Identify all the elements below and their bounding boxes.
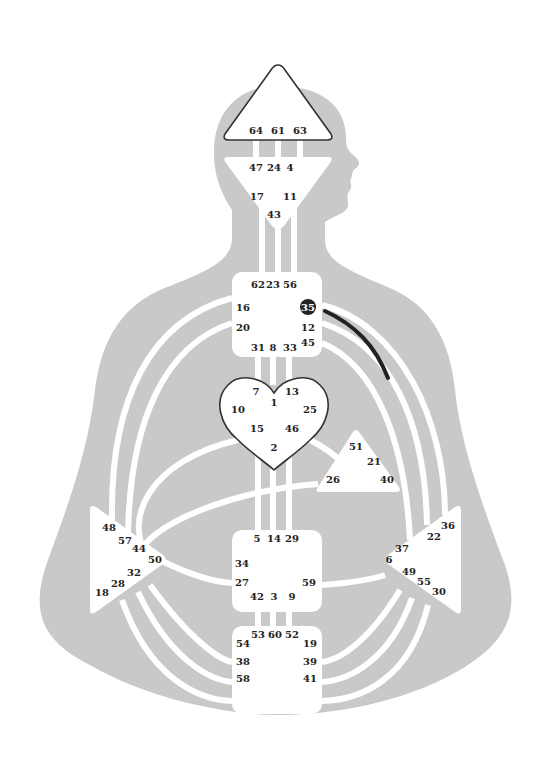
gate-1[interactable]: 1 [271, 397, 278, 408]
gate-5[interactable]: 5 [254, 533, 261, 544]
gate-57[interactable]: 57 [118, 535, 132, 546]
gate-20[interactable]: 20 [236, 322, 250, 333]
gate-42[interactable]: 42 [250, 591, 264, 602]
gate-29[interactable]: 29 [285, 533, 299, 544]
gate-10[interactable]: 10 [231, 404, 245, 415]
gate-43[interactable]: 43 [267, 209, 281, 220]
gate-45[interactable]: 45 [301, 337, 315, 348]
gate-7[interactable]: 7 [253, 386, 260, 397]
gate-9[interactable]: 9 [289, 591, 296, 602]
gate-24[interactable]: 24 [267, 162, 281, 173]
gate-53[interactable]: 53 [251, 629, 265, 640]
gate-44[interactable]: 44 [132, 543, 146, 554]
gate-61[interactable]: 61 [271, 125, 285, 136]
gate-21[interactable]: 21 [367, 456, 381, 467]
gate-15[interactable]: 15 [250, 423, 264, 434]
gate-33[interactable]: 33 [283, 342, 297, 353]
gate-54[interactable]: 54 [236, 638, 250, 649]
gate-6[interactable]: 6 [386, 554, 393, 565]
gate-58[interactable]: 58 [236, 673, 250, 684]
gate-25[interactable]: 25 [303, 404, 317, 415]
gate-60[interactable]: 60 [268, 629, 282, 640]
gate-32[interactable]: 32 [127, 567, 141, 578]
gate-47[interactable]: 47 [249, 162, 263, 173]
center-sacral[interactable]: 5 14 29 34 27 59 42 3 9 [232, 530, 322, 612]
gate-31[interactable]: 31 [251, 342, 265, 353]
gate-51[interactable]: 51 [349, 441, 363, 452]
gate-27[interactable]: 27 [235, 577, 249, 588]
gate-8[interactable]: 8 [270, 342, 277, 353]
gate-49[interactable]: 49 [402, 566, 416, 577]
gate-38[interactable]: 38 [236, 656, 250, 667]
gate-37[interactable]: 37 [395, 543, 409, 554]
gate-50[interactable]: 50 [148, 554, 162, 565]
gate-14[interactable]: 14 [267, 533, 281, 544]
gate-40[interactable]: 40 [380, 474, 394, 485]
gate-36[interactable]: 36 [441, 520, 455, 531]
gate-63[interactable]: 63 [293, 125, 307, 136]
gate-55[interactable]: 55 [417, 576, 431, 587]
gate-12[interactable]: 12 [301, 322, 315, 333]
gate-34[interactable]: 34 [235, 558, 249, 569]
gate-11[interactable]: 11 [283, 191, 297, 202]
gate-46[interactable]: 46 [285, 423, 299, 434]
gate-39[interactable]: 39 [303, 656, 317, 667]
gate-64[interactable]: 64 [249, 125, 263, 136]
gate-56[interactable]: 56 [283, 279, 297, 290]
gate-22[interactable]: 22 [427, 531, 441, 542]
gate-28[interactable]: 28 [111, 578, 125, 589]
center-throat[interactable]: 62 23 56 16 35 20 12 45 31 8 33 [232, 272, 322, 357]
gate-48[interactable]: 48 [102, 522, 116, 533]
gate-30[interactable]: 30 [432, 586, 446, 597]
gate-4[interactable]: 4 [287, 162, 294, 173]
gate-41[interactable]: 41 [303, 673, 317, 684]
gate-59[interactable]: 59 [302, 577, 316, 588]
center-root[interactable]: 53 60 52 54 19 38 39 58 41 [232, 626, 322, 714]
gate-35[interactable]: 35 [301, 302, 315, 313]
gate-16[interactable]: 16 [236, 302, 250, 313]
gate-18[interactable]: 18 [95, 587, 109, 598]
gate-62[interactable]: 62 [251, 279, 265, 290]
gate-52[interactable]: 52 [285, 629, 299, 640]
gate-13[interactable]: 13 [285, 386, 299, 397]
gate-17[interactable]: 17 [250, 191, 264, 202]
gate-19[interactable]: 19 [303, 638, 317, 649]
gate-2[interactable]: 2 [271, 442, 278, 453]
gate-23[interactable]: 23 [266, 279, 280, 290]
gate-3[interactable]: 3 [271, 591, 278, 602]
gate-26[interactable]: 26 [326, 474, 340, 485]
bodygraph-chart: 64 61 63 47 24 4 17 11 43 62 23 56 16 35… [0, 0, 539, 758]
